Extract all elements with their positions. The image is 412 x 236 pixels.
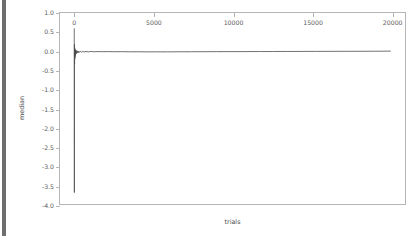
y-tick-label: -4.0 [42,203,54,209]
y-tick-mark [56,52,60,53]
x-axis-label: trials [59,219,406,225]
x-tick-mark [74,13,75,17]
y-axis-label: median [19,96,25,120]
chart-plot-area [60,13,405,204]
chart-line-svg [60,13,405,204]
y-tick-mark [56,13,60,14]
y-tick-label: -2.5 [42,145,54,151]
y-tick-mark [56,187,60,188]
vertical-scrollbar-thumb[interactable] [2,0,6,236]
x-tick-label: 15000 [303,20,323,26]
x-tick-mark [154,13,155,17]
y-tick-mark [56,90,60,91]
y-tick-label: -1.5 [42,106,54,112]
y-tick-mark [56,129,60,130]
matplotlib-figure: 1.00.50.0-0.5-1.0-1.5-2.0-2.5-3.0-3.5-4.… [8,0,412,236]
x-tick-label: 0 [72,20,76,26]
y-tick-label: -3.0 [42,164,54,170]
y-tick-label: 0.5 [44,29,54,35]
vertical-scrollbar-track[interactable] [0,0,8,236]
x-tick-label: 20000 [383,20,403,26]
series-median-line [74,28,391,192]
y-tick-label: -2.0 [42,126,54,132]
x-tick-mark [393,13,394,17]
y-tick-label: -1.0 [42,87,54,93]
y-tick-mark [56,71,60,72]
y-tick-label: -3.5 [42,184,54,190]
y-tick-mark [56,206,60,207]
y-tick-label: 1.0 [44,10,54,16]
x-tick-mark [234,13,235,17]
y-tick-mark [56,32,60,33]
x-tick-mark [313,13,314,17]
chart-axes: 1.00.50.0-0.5-1.0-1.5-2.0-2.5-3.0-3.5-4.… [59,12,406,205]
y-tick-mark [56,148,60,149]
screenshot-root: 1.00.50.0-0.5-1.0-1.5-2.0-2.5-3.0-3.5-4.… [0,0,412,236]
x-tick-label: 5000 [146,20,162,26]
y-tick-label: -0.5 [42,68,54,74]
x-tick-label: 10000 [224,20,244,26]
y-tick-mark [56,167,60,168]
y-tick-label: 0.0 [44,48,54,54]
y-tick-mark [56,110,60,111]
